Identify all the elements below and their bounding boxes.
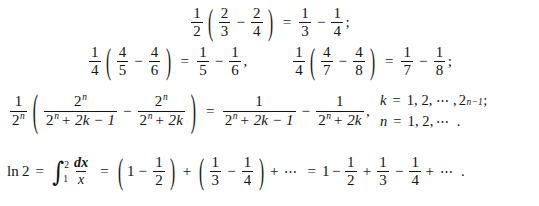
condition-terminator: . [457,111,461,132]
plus-operator: + [426,163,435,180]
coefficient-fraction: 1 2 [191,6,203,40]
power-base: 2 [459,90,466,111]
paren-term-1: 4 7 [321,45,333,79]
minus-operator: − [302,103,311,120]
variable-k: k [380,90,387,111]
condition-k: k = 1, 2, ⋯ , 2n−1 ; [380,90,488,111]
minus-operator: − [332,163,341,180]
fraction-numerator: 1 [293,45,305,60]
result-term-1: 1 5 [197,45,209,79]
coefficient-fraction: 1 4 [293,45,305,79]
fraction-numerator: 1 [331,6,343,21]
ellipsis: ⋯ [436,92,450,111]
comma: , [453,90,457,111]
log-argument: 2 [22,163,30,180]
minus-operator: − [419,53,428,70]
fraction-numerator: 1 [210,155,222,170]
plus-operator: + [270,163,279,180]
coefficient-fraction: 1 2n [10,94,27,128]
fraction-numerator: 1 [345,155,357,170]
fraction-numerator: 4 [353,45,365,60]
result-term-1: 1 2n+ 2k − 1 [223,94,296,128]
fraction-denominator: 2n+ 2k [138,111,185,128]
paren-term-1: 4 5 [117,45,129,79]
fraction-denominator: 5 [197,61,209,78]
fraction-denominator: 4 [409,171,421,188]
right-paren: ) [170,154,175,191]
fraction-denominator: 2n+ 2k − 1 [44,111,117,128]
right-paren: ) [191,89,196,133]
line-terminator: ; [448,53,452,70]
fraction-denominator: 4 [89,61,101,78]
fraction-numerator: 2 [251,6,263,21]
line-terminator: , [366,103,370,120]
index-conditions: k = 1, 2, ⋯ , 2n−1 ; n = 1, 2, ⋯ . [380,90,488,132]
power-exponent: n [326,111,331,121]
power-base: 2 [46,112,54,128]
equals-operator: = [100,163,109,180]
group2-term-2: 1 4 [242,155,254,189]
fraction-denominator: 4 [242,171,254,188]
power-base: 2 [140,112,148,128]
natural-log-label: ln [7,163,19,180]
equals-operator: = [307,163,316,180]
fraction-numerator: 2n [72,94,89,109]
equation-line-4: ln 2 = ∫ 2 1 dx x = ( 1 − 1 2 ) + ( 1 3 [7,155,465,189]
fraction-numerator: 1 [197,45,209,60]
equals-operator: = [392,90,400,111]
denominator-remainder: + 2k − 1 [240,112,294,128]
fraction-numerator: 1 [334,94,346,109]
equals-operator: = [181,53,190,70]
fraction-denominator: 3 [377,171,389,188]
equals-operator: = [283,14,292,31]
condition-values: 1, 2, [408,111,434,132]
minus-operator: − [123,103,132,120]
minus-operator: − [139,163,148,180]
group2-term-1: 1 3 [210,155,222,189]
fraction-numerator: 2 [219,6,231,21]
fraction-denominator: 4 [293,61,305,78]
fraction-denominator: 7 [321,61,333,78]
fraction-denominator: 6 [229,61,241,78]
fraction-denominator: 3 [210,171,222,188]
series-term-1: 1 2 [345,155,357,189]
variable-n: n [380,111,387,132]
ellipsis: ⋯ [436,113,450,132]
equals-operator: = [206,103,215,120]
power-base: 2 [318,112,326,128]
denominator-remainder: + 2k [155,112,183,128]
condition-values: 1, 2, [407,90,433,111]
fraction-denominator: 2n+ 2k [316,111,363,128]
result-term-2: 1 4 [331,6,343,40]
fraction-denominator: x [76,171,86,187]
fraction-numerator: 1 [191,6,203,21]
minus-operator: − [339,53,348,70]
minus-operator: − [317,14,326,31]
fraction-numerator: 1 [229,45,241,60]
left-paren: ( [310,44,315,81]
fraction-numerator: dx [72,156,90,170]
power-exponent: n [20,111,25,121]
fraction-numerator: 4 [149,45,161,60]
minus-operator: − [215,53,224,70]
fraction-numerator: 1 [253,94,265,109]
fraction-numerator: 1 [89,45,101,60]
right-paren: ) [259,154,264,191]
group1-first-term: 1 [127,163,135,180]
result-term-1: 1 3 [299,6,311,40]
equation-2b: 1 4 ( 4 7 − 4 8 ) = 1 7 − 1 8 [291,45,452,79]
fraction-denominator: 2 [153,171,165,188]
integral-icon: ∫ [52,162,64,181]
fraction-denominator: 6 [149,61,161,78]
denominator-remainder: + 2k [333,112,361,128]
power-base: 2 [155,93,163,109]
definite-integral: ∫ 2 1 dx x [51,156,92,188]
fraction-denominator: 2n [10,111,27,128]
ellipsis: ⋯ [440,164,454,180]
minus-operator: − [395,163,404,180]
fraction-denominator: 2n+ 2k − 1 [223,111,296,128]
paren-term-2: 2 4 [251,6,263,40]
fraction-numerator: 1 [13,94,25,109]
group1-term: 1 2 [153,155,165,189]
left-paren: ( [118,154,123,191]
